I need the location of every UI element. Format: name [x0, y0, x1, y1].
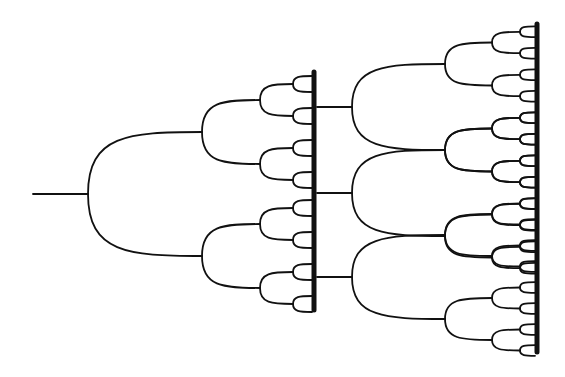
left-tree-branch-l4 [293, 208, 312, 216]
right-subtree-branch-l4 [520, 134, 535, 139]
left-tree-branch-l3 [260, 164, 293, 180]
left-tree-branch-l2 [202, 224, 260, 256]
left-tree-branch-l4 [293, 140, 312, 148]
right-subtree-branch-l3 [492, 86, 520, 97]
right-subtree-branch-l4 [520, 282, 535, 287]
right-subtree-branch-l2 [445, 298, 492, 319]
right-subtree-branch-l3 [492, 172, 520, 183]
right-subtree-branch-l1 [352, 193, 445, 236]
right-subtree-branch-l3 [492, 172, 520, 183]
right-subtree-branch-l3 [492, 118, 520, 129]
bifurcation-diagram [0, 0, 565, 377]
right-subtree-branch-l4 [520, 330, 535, 335]
right-subtree-branch-l4 [520, 155, 535, 160]
right-subtree-branch-l4 [520, 112, 535, 117]
right-subtree-branch-l2 [445, 215, 492, 237]
left-tree-branch-l4 [293, 180, 312, 188]
right-subtree-branch-l2 [445, 150, 492, 172]
right-subtree-branch-l3 [492, 161, 520, 172]
right-subtree-branch-l2 [445, 214, 492, 235]
right-subtree-branch-l4 [520, 118, 535, 123]
right-subtree-branch-l1 [352, 107, 445, 150]
right-subtree-branch-l4 [520, 53, 535, 58]
right-subtree-branch-l3 [492, 161, 520, 172]
left-tree-branch-l4 [293, 172, 312, 180]
right-subtree-branch-l4 [520, 161, 535, 166]
right-subtree-branch-l4 [520, 26, 535, 31]
left-tree-branch-l3 [260, 148, 293, 164]
right-subtree-branch-l1 [352, 235, 445, 277]
left-tree-branch-l2 [202, 132, 260, 164]
right-subtree-branch-l4 [520, 177, 535, 182]
left-tree-branch-l4 [293, 240, 312, 248]
right-subtree [352, 26, 535, 187]
right-subtree-branch-l3 [492, 32, 520, 43]
right-subtree-branch-l2 [445, 150, 492, 172]
right-subtree-branch-l1 [352, 64, 445, 107]
left-tree-branch-l3 [260, 272, 293, 288]
right-subtree-branch-l2 [445, 319, 492, 340]
terminal-bars [314, 24, 537, 352]
right-subtree [352, 198, 535, 356]
left-tree-branch-l4 [293, 200, 312, 208]
left-tree-branch-l4 [293, 232, 312, 240]
right-subtree-branch-l4 [520, 139, 535, 144]
right-subtree-branch-l4 [520, 204, 535, 209]
left-tree-branch-l4 [293, 272, 312, 280]
right-subtree-branch-l3 [492, 288, 520, 299]
right-subtree-branch-l3 [492, 129, 520, 140]
left-tree-branch-l4 [293, 84, 312, 92]
left-tree-branch-l2 [202, 256, 260, 288]
right-subtree-branch-l3 [492, 340, 520, 351]
left-tree-branch-l4 [293, 264, 312, 272]
right-subtree-branch-l4 [520, 351, 535, 356]
right-subtree-branch-l3 [492, 129, 520, 140]
right-subtree-branch-l4 [520, 32, 535, 37]
right-subtree-branch-l3 [492, 298, 520, 309]
right-subtree-branch-l4 [520, 182, 535, 187]
right-trees [352, 26, 535, 355]
right-subtree-branch-l2 [445, 129, 492, 151]
left-tree-branch-l4 [293, 76, 312, 84]
right-subtree-branch-l3 [492, 43, 520, 54]
left-tree-branch-l4 [293, 148, 312, 156]
left-tree-branch-l3 [260, 208, 293, 224]
left-tree-branch-l2 [202, 100, 260, 132]
right-subtree-branch-l2 [445, 64, 492, 86]
right-subtree-branch-l1 [352, 277, 445, 319]
left-tree-branch-l3 [260, 84, 293, 100]
tree-connectors [317, 107, 352, 277]
left-tree-branch-l3 [260, 224, 293, 240]
left-tree [33, 76, 312, 312]
right-subtree-branch-l4 [520, 48, 535, 53]
left-tree-branch-l3 [260, 288, 293, 304]
right-subtree-branch-l3 [492, 75, 520, 86]
right-subtree-branch-l4 [520, 309, 535, 314]
left-tree-branch-l1 [88, 194, 202, 256]
right-subtree-branch-l4 [520, 225, 535, 230]
right-subtree-branch-l4 [520, 246, 535, 251]
right-subtree-branch-l4 [520, 267, 535, 272]
right-subtree-branch-l3 [492, 330, 520, 341]
left-tree-branch-l4 [293, 296, 312, 304]
right-subtree-branch-l2 [445, 43, 492, 65]
right-subtree-branch-l4 [520, 96, 535, 101]
left-tree-branch-l1 [88, 132, 202, 194]
left-tree-branch-l4 [293, 116, 312, 124]
right-subtree-branch-l2 [445, 129, 492, 151]
right-subtree-branch-l4 [520, 75, 535, 80]
right-subtree-branch-l4 [520, 91, 535, 96]
right-subtree-branch-l4 [520, 69, 535, 74]
right-subtree-branch-l4 [520, 345, 535, 350]
right-subtree-branch-l4 [520, 288, 535, 293]
left-tree-branch-l4 [293, 304, 312, 312]
right-subtree-branch-l3 [492, 118, 520, 129]
right-subtree-branch-l4 [520, 324, 535, 329]
right-subtree [352, 112, 535, 273]
left-tree-branch-l4 [293, 108, 312, 116]
right-subtree-branch-l1 [352, 150, 445, 193]
left-tree-branch-l3 [260, 100, 293, 116]
right-subtree-branch-l4 [520, 303, 535, 308]
